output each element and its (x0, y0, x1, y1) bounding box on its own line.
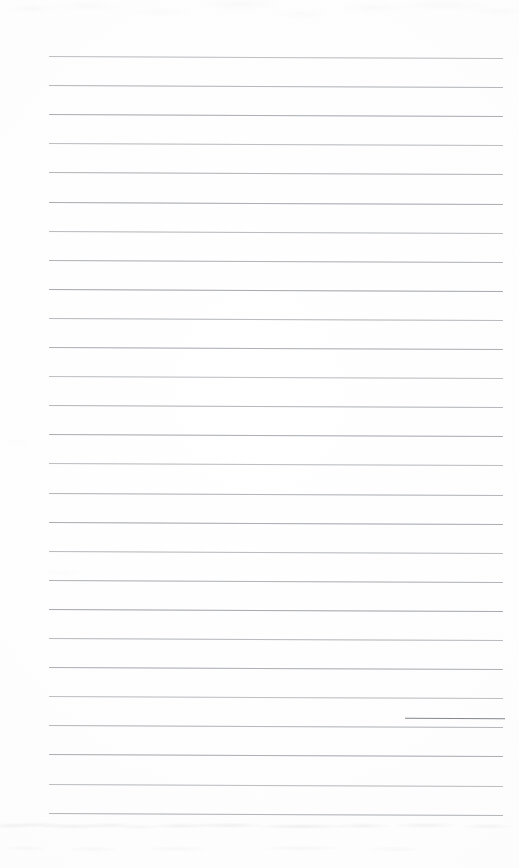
ruled-line (49, 725, 503, 728)
bottom-smudge-artifact (0, 816, 519, 868)
ruled-line (49, 85, 503, 88)
ruled-line (49, 522, 503, 525)
ruled-line (49, 114, 503, 117)
ruled-line (49, 493, 503, 496)
ruled-lines-layer (0, 0, 519, 868)
ruled-line (49, 580, 503, 583)
ruled-line (49, 260, 503, 263)
ruled-line (49, 463, 503, 466)
ruled-line (49, 202, 503, 205)
scanned-page (0, 0, 519, 868)
ruled-line (49, 56, 503, 59)
ruled-line (49, 667, 503, 670)
dark-line-segment-artifact (405, 718, 505, 719)
ruled-line (49, 172, 503, 175)
ruled-line (49, 551, 503, 554)
ruled-line (49, 376, 503, 379)
ruled-line (49, 231, 503, 234)
ruled-line (49, 638, 503, 641)
ruled-line (49, 784, 503, 787)
ruled-line (49, 347, 503, 350)
ruled-line (49, 754, 503, 757)
ruled-line (49, 609, 503, 612)
ruled-line (49, 696, 503, 699)
ruled-line (49, 289, 503, 292)
ruled-line (49, 405, 503, 408)
ruled-line (49, 434, 503, 437)
ruled-line (49, 143, 503, 146)
ruled-line (49, 318, 503, 321)
